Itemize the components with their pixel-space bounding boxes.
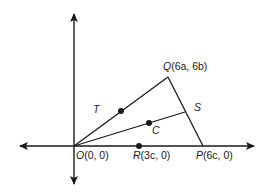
label-O: O(0, 0) (76, 149, 109, 161)
label-S: S (194, 101, 201, 113)
segment-OS (74, 112, 185, 146)
label-Q: Q(6a, 6b) (163, 60, 207, 72)
triangle-diagram: Q(6a, 6b) S T C O(0, 0) R(3c, 0) P(6c, 0… (0, 0, 274, 193)
label-P: P(6c, 0) (196, 149, 233, 161)
label-R: R(3c, 0) (133, 149, 170, 161)
label-C: C (152, 124, 160, 136)
dot-midpoint-OQ (118, 108, 124, 114)
label-T: T (93, 103, 101, 115)
